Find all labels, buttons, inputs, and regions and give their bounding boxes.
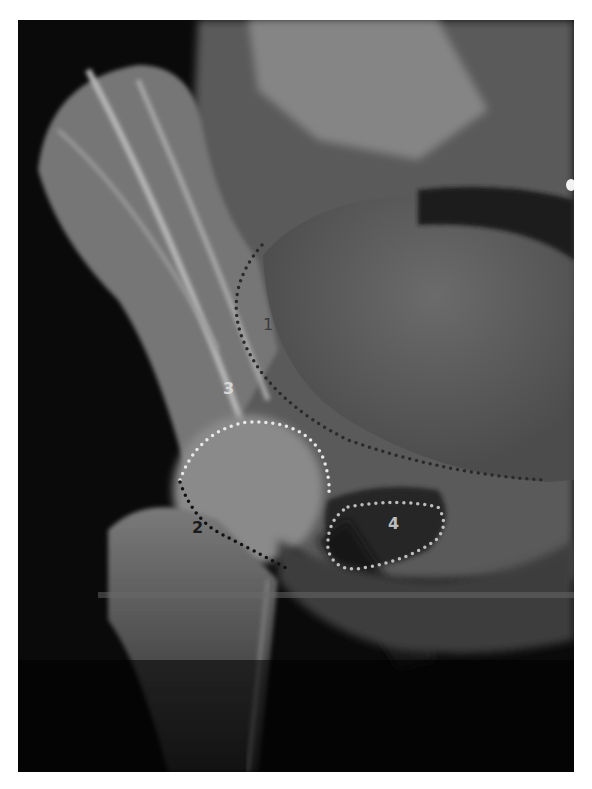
xray-image (18, 20, 574, 772)
annotation-label-1: 1 (263, 317, 273, 333)
annotation-label-2: 2 (192, 520, 203, 536)
annotation-label-3: 3 (223, 381, 234, 397)
xray-figure: 1 2 3 4 (18, 20, 574, 772)
annotation-label-4: 4 (388, 516, 399, 532)
